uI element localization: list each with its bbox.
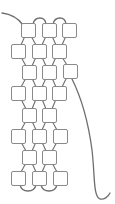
- bead: [33, 172, 47, 186]
- bead: [43, 151, 57, 165]
- bead: [53, 87, 67, 101]
- bead: [63, 24, 77, 38]
- bead: [12, 130, 26, 144]
- bead: [54, 130, 68, 144]
- bead: [22, 24, 36, 38]
- bead: [23, 66, 37, 80]
- bead: [33, 130, 47, 144]
- diagram-canvas: [0, 0, 115, 204]
- thread-tail-start: [2, 13, 23, 25]
- thread-tail-end: [72, 79, 110, 199]
- bead: [12, 87, 26, 101]
- bead: [33, 87, 47, 101]
- bead: [23, 109, 37, 123]
- bead: [12, 45, 26, 59]
- bead: [43, 24, 57, 38]
- bead: [64, 65, 78, 79]
- beading-diagram: [0, 0, 115, 204]
- bead: [23, 151, 37, 165]
- bead: [53, 45, 67, 59]
- bead: [54, 172, 68, 186]
- bead: [43, 109, 57, 123]
- bead: [12, 172, 26, 186]
- bead: [33, 45, 47, 59]
- bead: [43, 66, 57, 80]
